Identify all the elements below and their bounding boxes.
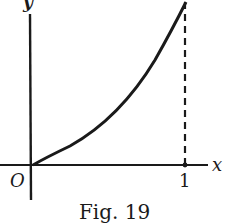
figure-19: y x O 1 Fig. 19 [0,0,229,223]
tick-label-1: 1 [179,170,190,191]
tick-point-x-1 [183,163,188,168]
y-axis [30,14,31,200]
origin-label: O [10,170,25,191]
y-axis-label: y [22,0,34,12]
curve [33,2,186,165]
figure-caption: Fig. 19 [79,200,150,223]
x-axis-label: x [212,154,222,175]
